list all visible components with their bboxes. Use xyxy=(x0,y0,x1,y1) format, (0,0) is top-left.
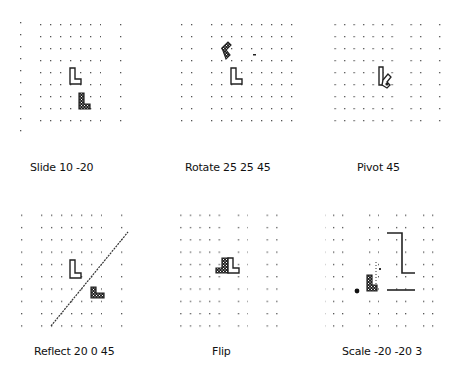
rotation-center xyxy=(253,54,256,56)
caption-pivot: Pivot 45 xyxy=(357,161,400,174)
caption-reflect: Reflect 20 0 45 xyxy=(34,345,114,358)
grid-rotate xyxy=(160,0,310,160)
panel-slide: Slide 10 -20 xyxy=(0,0,150,185)
dot-grid xyxy=(20,22,21,131)
grid-slide xyxy=(0,0,150,160)
panel-rotate: Rotate 25 25 45 xyxy=(160,0,310,185)
caption-scale: Scale -20 -20 3 xyxy=(342,345,422,358)
caption-slide: Slide 10 -20 xyxy=(30,161,93,174)
scale-center xyxy=(355,289,360,294)
panel-pivot: Pivot 45 xyxy=(305,0,457,185)
panel-reflect: Reflect 20 0 45 xyxy=(0,190,150,375)
grid-pivot xyxy=(305,0,457,160)
grid-reflect xyxy=(0,190,150,335)
caption-rotate: Rotate 25 25 45 xyxy=(185,161,271,174)
grid-scale xyxy=(305,190,457,335)
panel-flip: Flip xyxy=(160,190,310,375)
caption-flip: Flip xyxy=(212,345,231,358)
panel-scale: Scale -20 -20 3 xyxy=(305,190,457,375)
grid-flip xyxy=(160,190,310,335)
